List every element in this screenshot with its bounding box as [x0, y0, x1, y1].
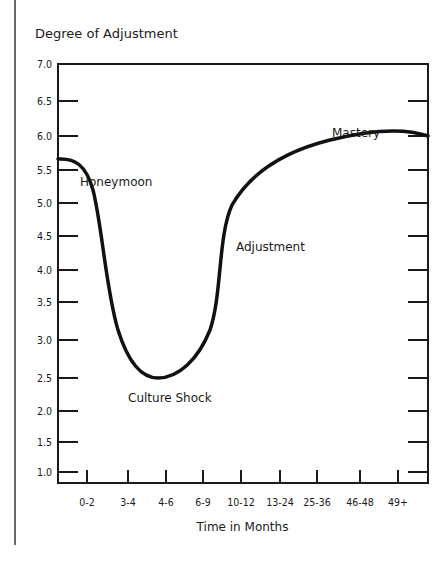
- x-tick-label: 4-6: [158, 496, 173, 508]
- x-tick-label: 49+: [388, 496, 408, 508]
- y-tick-label: 4.0: [37, 264, 52, 276]
- y-tick-label: 4.5: [37, 230, 52, 242]
- x-tick-label: 13-24: [266, 496, 293, 508]
- x-tick-label: 46-48: [346, 496, 373, 508]
- y-tick-label: 2.5: [37, 372, 52, 384]
- y-tick-label: 7.0: [37, 58, 52, 70]
- x-tick-label: 3-4: [120, 496, 135, 508]
- y-tick-label: 2.0: [37, 405, 52, 417]
- y-tick-label: 5.0: [37, 197, 52, 209]
- adjustment-curve: [58, 131, 428, 378]
- y-tick-label: 3.0: [37, 334, 52, 346]
- y-tick-label: 5.5: [37, 164, 52, 176]
- x-tick-label: 0-2: [79, 496, 94, 508]
- annotation-mastery: Mastery: [332, 126, 380, 140]
- y-tick-label: 1.0: [37, 466, 52, 478]
- x-tick-label: 25-36: [303, 496, 330, 508]
- x-axis-ticks: 0-23-44-66-910-1213-2425-3646-4849+: [79, 470, 408, 508]
- annotation-adjustment: Adjustment: [236, 240, 305, 254]
- y-tick-label: 6.5: [37, 95, 52, 107]
- annotation-culture-shock: Culture Shock: [128, 391, 212, 405]
- y-tick-label: 6.0: [37, 130, 52, 142]
- y-tick-label: 3.5: [37, 296, 52, 308]
- x-axis-label: Time in Months: [0, 520, 445, 534]
- y-axis-ticks: 7.06.56.05.55.04.54.03.53.02.52.01.51.0: [37, 58, 428, 478]
- u-curve-chart: 7.06.56.05.55.04.54.03.53.02.52.01.51.0 …: [0, 0, 445, 561]
- x-tick-label: 6-9: [195, 496, 210, 508]
- annotation-honeymoon: Honeymoon: [80, 175, 152, 189]
- y-tick-label: 1.5: [37, 436, 52, 448]
- x-tick-label: 10-12: [227, 496, 254, 508]
